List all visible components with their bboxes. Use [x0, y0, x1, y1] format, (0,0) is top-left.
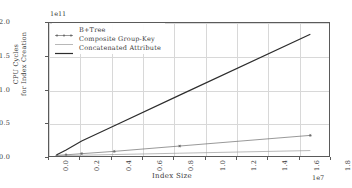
x-tick-label: 1.4	[281, 160, 289, 171]
y-tick-label: 0.0	[0, 153, 10, 161]
legend-label: Composite Group-Key	[79, 35, 155, 43]
series-marker-0	[178, 144, 182, 147]
legend-item: B+Tree	[54, 25, 161, 34]
y-axis-offset-text: 1e11	[50, 10, 66, 18]
x-tick-label: 0.8	[187, 160, 195, 171]
y-tick-mark	[45, 22, 48, 23]
x-tick-label: 1.8	[344, 160, 352, 171]
y-axis-label-line1: CPU Cycles	[12, 16, 20, 112]
x-tick-mark	[236, 157, 237, 160]
legend-sample-0	[54, 25, 74, 34]
x-tick-mark	[48, 157, 49, 160]
x-tick-mark	[111, 157, 112, 160]
x-tick-label: 1.2	[250, 160, 258, 171]
legend-item: Concatenated Attribute	[54, 43, 161, 52]
series-line-0	[57, 135, 311, 155]
series-marker-0	[112, 150, 116, 153]
x-tick-mark	[267, 157, 268, 160]
y-tick-label: 2.0	[0, 18, 10, 26]
y-tick-label: 1.5	[0, 52, 10, 60]
x-tick-mark	[79, 157, 80, 160]
y-tick-mark	[45, 56, 48, 57]
legend-label: B+Tree	[79, 26, 106, 34]
y-axis-label-line2: for Index Creation	[20, 16, 28, 112]
series-marker-0	[64, 153, 68, 156]
legend-sample-2	[54, 43, 74, 52]
y-tick-mark	[45, 90, 48, 91]
x-tick-label: 0.2	[93, 160, 101, 171]
series-marker-0	[308, 134, 312, 137]
x-tick-mark	[205, 157, 206, 160]
legend-sample-1	[54, 34, 74, 43]
series-marker-0	[80, 152, 84, 155]
x-tick-label: 0.6	[156, 160, 164, 171]
y-axis-label: CPU Cycles for Index Creation	[12, 16, 28, 112]
y-tick-label: 1.0	[0, 86, 10, 94]
series-line-1	[57, 151, 311, 156]
y-tick-label: 0.5	[0, 119, 10, 127]
x-tick-label: 0.0	[62, 160, 70, 171]
x-tick-label: 1.0	[219, 160, 227, 171]
y-tick-mark	[45, 123, 48, 124]
x-axis-label: Index Size	[0, 172, 344, 180]
legend-item: Composite Group-Key	[54, 34, 161, 43]
x-tick-mark	[173, 157, 174, 160]
x-tick-mark	[142, 157, 143, 160]
legend: B+TreeComposite Group-KeyConcatenated At…	[52, 23, 165, 54]
x-tick-mark	[330, 157, 331, 160]
x-tick-label: 1.6	[313, 160, 321, 171]
legend-label: Concatenated Attribute	[79, 44, 161, 52]
x-tick-label: 0.4	[125, 160, 133, 171]
x-tick-mark	[299, 157, 300, 160]
